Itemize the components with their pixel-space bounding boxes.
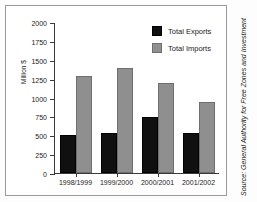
y-tick-label: 1750: [31, 38, 47, 45]
bar-group: 1999/2000: [96, 23, 137, 173]
bar-exports: [142, 117, 158, 173]
bar-exports: [60, 135, 76, 174]
y-tick-label: 250: [35, 152, 47, 159]
y-tick-mark: [50, 174, 55, 175]
bar-exports: [183, 133, 199, 173]
bar-group: 1998/1999: [55, 23, 96, 173]
bar-imports: [199, 102, 215, 173]
legend-swatch-imports: [152, 43, 162, 53]
x-tick-mark: [158, 173, 159, 177]
y-tick-label: 750: [35, 114, 47, 121]
bar-imports: [76, 76, 92, 173]
x-tick-mark: [76, 173, 77, 177]
y-tick-label: 1000: [31, 95, 47, 102]
source-note: Source: General Authority for Free Zones…: [240, 18, 247, 196]
x-tick-mark: [199, 173, 200, 177]
y-tick-label: 2000: [31, 20, 47, 27]
legend-label-imports: Total Imports: [168, 44, 211, 53]
x-tick-label: 1999/2000: [100, 179, 133, 186]
y-tick-label: 500: [35, 133, 47, 140]
y-axis-title: Million $: [20, 60, 27, 84]
legend-swatch-exports: [152, 26, 162, 36]
chart-legend: Total Exports Total Imports: [152, 26, 211, 53]
chart-figure: Million $ 025050075010001250150017502000…: [0, 0, 257, 202]
bar-imports: [117, 68, 133, 173]
bar-imports: [158, 83, 174, 173]
y-tick-label: 1500: [31, 57, 47, 64]
legend-label-exports: Total Exports: [168, 27, 211, 36]
x-tick-label: 1998/1999: [59, 179, 92, 186]
y-tick-label: 1250: [31, 76, 47, 83]
x-tick-mark: [117, 173, 118, 177]
x-axis-line: [54, 173, 219, 174]
chart-frame: Million $ 025050075010001250150017502000…: [5, 5, 227, 196]
legend-item-exports: Total Exports: [152, 26, 211, 36]
x-tick-label: 2000/2001: [141, 179, 174, 186]
legend-item-imports: Total Imports: [152, 43, 211, 53]
bar-exports: [101, 133, 117, 173]
x-tick-label: 2001/2002: [182, 179, 215, 186]
y-tick-label: 0: [43, 171, 47, 178]
